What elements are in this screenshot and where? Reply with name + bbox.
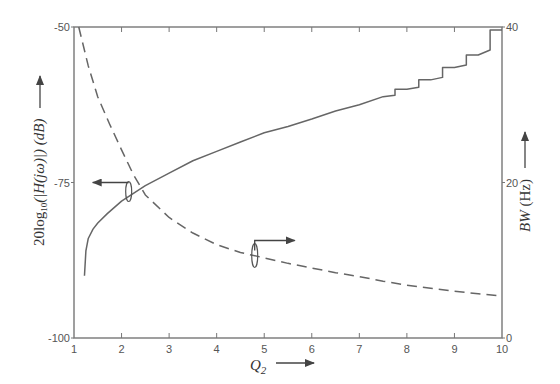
x-label-sub: 2	[261, 364, 267, 376]
gain-solid-curve	[84, 30, 502, 276]
x-tick-label: 1	[71, 343, 77, 355]
svg-text:BW (Hz): BW (Hz)	[517, 179, 534, 232]
gain-curve-marker-icon	[126, 182, 132, 202]
x-tick-label: 8	[404, 343, 410, 355]
y-axis-right-label: BW (Hz)	[517, 179, 534, 232]
axis-ticks: 12345678910-100-75-5002040	[48, 21, 518, 355]
annotations	[93, 182, 295, 268]
y-right-tick-label: 40	[506, 21, 518, 33]
left-label-main: 20log	[31, 211, 47, 246]
y-axis-left-label: 20log10(|H(jω)|) (dB)	[31, 119, 49, 246]
right-label-italic: BW	[517, 209, 533, 232]
svg-text:Q2: Q2	[250, 357, 267, 376]
x-tick-label: 7	[356, 343, 362, 355]
x-tick-label: 10	[496, 343, 508, 355]
x-tick-label: 2	[118, 343, 124, 355]
x-label-main: Q	[250, 357, 261, 373]
y-left-tick-label: -75	[54, 177, 70, 189]
bw-dashed-curve	[79, 27, 502, 296]
y-left-tick-label: -50	[54, 21, 70, 33]
y-right-tick-label: 0	[506, 332, 512, 344]
svg-text:20log10(|H(jω)|) (dB): 20log10(|H(jω)|) (dB)	[31, 119, 49, 246]
x-tick-label: 6	[309, 343, 315, 355]
x-axis-label: Q2	[250, 357, 314, 376]
y-left-tick-label: -100	[48, 332, 70, 344]
x-tick-label: 3	[166, 343, 172, 355]
chart: 12345678910-100-75-5002040 Q2 20log10(|H…	[0, 0, 560, 384]
left-label-rest: (|H(jω)|) (dB)	[31, 119, 48, 203]
axis-labels: Q2 20log10(|H(jω)|) (dB) BW (Hz)	[31, 76, 534, 376]
right-pointing-arrow-icon	[255, 240, 295, 250]
x-tick-label: 4	[214, 343, 220, 355]
right-label-rest: (Hz)	[517, 179, 534, 210]
series-group	[79, 27, 502, 296]
x-tick-label: 5	[261, 343, 267, 355]
x-tick-label: 9	[451, 343, 457, 355]
